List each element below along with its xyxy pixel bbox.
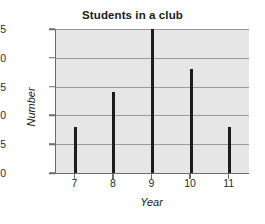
x-tick-label: 10 [173, 177, 207, 189]
y-axis-label: Number [25, 67, 37, 147]
bar [74, 127, 77, 173]
y-tick-label: 25 [0, 23, 6, 35]
y-tick-label: 5 [0, 138, 6, 150]
y-tick-label: 20 [0, 52, 6, 64]
x-tick-label: 11 [212, 177, 246, 189]
y-tick-label: 10 [0, 109, 6, 121]
chart-title: Students in a club [0, 9, 265, 21]
bar [228, 127, 231, 173]
x-tick-label: 9 [135, 177, 169, 189]
bar [112, 92, 115, 173]
x-tick-label: 8 [96, 177, 130, 189]
plot-area [55, 29, 249, 174]
chart-figure: Students in a club Number 0510152025 789… [0, 0, 265, 224]
y-tick-label: 15 [0, 81, 6, 93]
y-tick-label: 0 [0, 167, 6, 179]
x-axis-label: Year [55, 196, 248, 208]
x-tick-label: 7 [57, 177, 91, 189]
plot-inner [56, 29, 249, 173]
bar [151, 29, 154, 173]
bar [190, 69, 193, 173]
